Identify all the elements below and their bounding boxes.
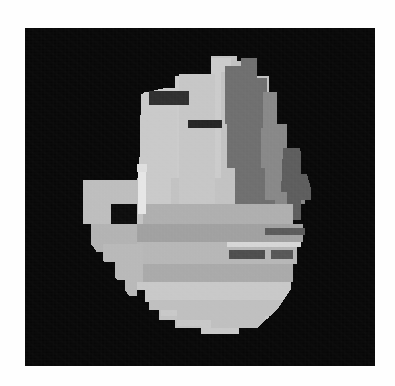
region-mid-band-upper <box>143 204 293 224</box>
region-bright-sliver-right <box>227 242 301 247</box>
caption-strip <box>25 370 375 382</box>
scan-render-surface <box>25 28 375 366</box>
region-lower-body-band-2 <box>129 264 293 282</box>
region-dark-notch-upper-left <box>111 204 137 224</box>
grayscale-scan-canvas <box>25 28 375 366</box>
region-dark-inset-bar <box>188 120 222 128</box>
region-dark-stripe-right-b <box>271 250 293 259</box>
occluder-bottom-notch <box>175 328 201 340</box>
region-dark-inset-top <box>149 91 189 105</box>
occluder-bottom <box>25 340 375 366</box>
region-dark-stripe-right-a <box>229 250 265 259</box>
region-dark-stripe-right-c <box>265 228 305 235</box>
region-bright-highlight-edge <box>138 170 146 214</box>
page-root <box>0 0 395 386</box>
